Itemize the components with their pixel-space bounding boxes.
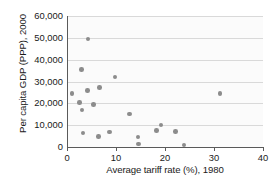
- x-axis-title: Average tariff rate (%), 1980: [67, 164, 263, 175]
- data-point: [91, 102, 96, 107]
- y-axis-line: [67, 16, 68, 148]
- gridline: [67, 82, 263, 83]
- gridline: [67, 103, 263, 104]
- y-tick-label: 0: [15, 141, 63, 152]
- data-point: [79, 67, 84, 72]
- y-tick-label: 40,000: [15, 54, 63, 65]
- x-tick-label: 40: [251, 152, 275, 163]
- x-tick-mark: [165, 147, 166, 151]
- y-tick-label: 10,000: [15, 119, 63, 130]
- data-point: [218, 91, 223, 96]
- x-tick-mark: [116, 147, 117, 151]
- x-tick-label: 0: [55, 152, 79, 163]
- data-point: [136, 142, 141, 147]
- gridline: [67, 60, 263, 61]
- data-point: [96, 134, 101, 139]
- x-tick-mark: [67, 147, 68, 151]
- data-point: [77, 100, 82, 105]
- data-point: [107, 130, 112, 135]
- data-point: [154, 128, 159, 133]
- data-point: [97, 85, 102, 90]
- x-tick-label: 20: [153, 152, 177, 163]
- y-tick-label: 60,000: [15, 10, 63, 21]
- y-tick-label: 30,000: [15, 76, 63, 87]
- scatter-chart-figure: Per capita GDP (PPP), 2000 010,00020,000…: [0, 0, 279, 183]
- y-tick-label: 20,000: [15, 97, 63, 108]
- gridline: [67, 38, 263, 39]
- y-tick-label: 50,000: [15, 32, 63, 43]
- data-point: [85, 88, 90, 93]
- x-tick-mark: [214, 147, 215, 151]
- x-tick-label: 10: [104, 152, 128, 163]
- x-tick-mark: [263, 147, 264, 151]
- gridline: [67, 125, 263, 126]
- gridline: [67, 16, 263, 17]
- data-point: [70, 91, 75, 96]
- x-tick-label: 30: [202, 152, 226, 163]
